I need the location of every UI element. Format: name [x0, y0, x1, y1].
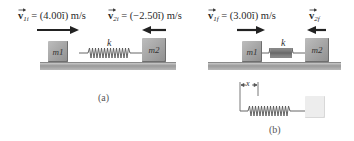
floor	[208, 63, 341, 70]
block-m1: m1	[48, 41, 68, 62]
arrow-left-icon	[307, 26, 326, 34]
floor	[40, 63, 176, 70]
compression-label: x	[246, 79, 250, 88]
spring-icon	[240, 106, 305, 116]
v2f-label: v2f	[309, 10, 320, 23]
block-m2: m2	[142, 38, 166, 62]
caption-b: (b)	[269, 124, 281, 135]
spring-icon	[79, 48, 142, 58]
panel-a-graphics	[0, 0, 354, 141]
spring-icon	[262, 48, 305, 58]
spring-constant-label: k	[281, 37, 285, 48]
ghost-block	[305, 96, 325, 118]
arrow-right-icon	[37, 26, 79, 34]
arrow-right-icon	[237, 26, 265, 34]
block-m2: m2	[305, 38, 329, 62]
caption-a: (a)	[98, 92, 109, 103]
arrow-left-icon	[142, 26, 166, 34]
block-m1: m1	[242, 41, 262, 62]
spring-constant-label: k	[107, 37, 111, 48]
v1f-label: v1f = (3.00î) m/s	[208, 10, 276, 23]
